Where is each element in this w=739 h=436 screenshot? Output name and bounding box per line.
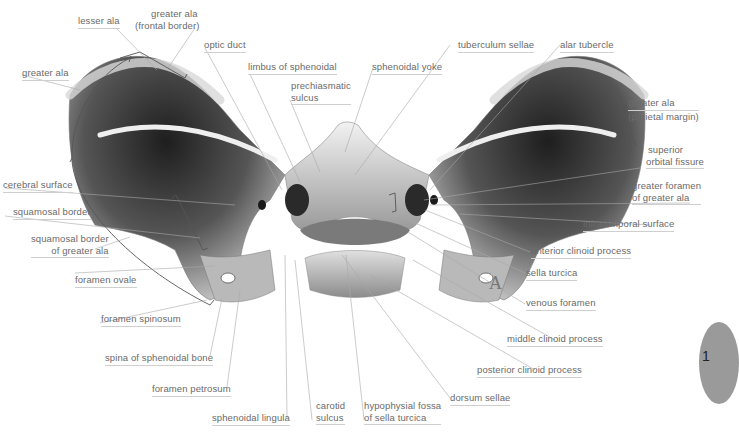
label-venous-foramen: venous foramen — [526, 297, 596, 311]
page-tab-number: 1 — [702, 348, 710, 364]
label-infratemporal-surface: infratemporal surface — [583, 218, 674, 232]
label-spina-sphenoidal-bone: spina of sphenoidal bone — [105, 352, 213, 366]
label-dorsum-sellae: dorsum sellae — [450, 392, 510, 406]
label-squamosal-border-greater-ala: squamosal border of greater ala — [31, 233, 109, 258]
label-middle-clinoid-process: middle clinoid process — [507, 333, 603, 347]
label-limbus-sphenoidal: limbus of sphenoidal — [248, 61, 337, 75]
label-cerebral-surface: cerebral surface — [3, 179, 73, 193]
view-letter: A — [489, 273, 502, 294]
label-tuberculum-sellae: tuberculum sellae — [458, 39, 534, 53]
label-superior-orbital-fissure: superior orbital fissure — [646, 144, 704, 169]
label-greater-ala: greater ala — [22, 67, 69, 81]
label-anterior-clinoid-process: anterior clinoid process — [531, 245, 631, 259]
label-lesser-ala: lesser ala — [78, 15, 120, 29]
label-posterior-clinoid-process: posterior clinoid process — [477, 364, 582, 378]
label-greater-ala-frontal: greater ala (frontal border) — [135, 8, 199, 31]
label-alar-tubercle: alar tubercle — [560, 39, 614, 53]
label-foramen-petrosum: foramen petrosum — [152, 383, 231, 397]
label-prechiasmatic-sulcus: prechiasmatic sulcus — [291, 80, 351, 105]
label-foramen-spinosum: foramen spinosum — [101, 313, 181, 327]
label-hypophysial-fossa: hypophysial fossa of sella turcica — [364, 400, 441, 425]
label-optic-duct: optic duct — [204, 39, 246, 53]
label-carotid-sulcus: carotid sulcus — [316, 400, 345, 425]
label-sphenoidal-yoke: sphenoidal yoke — [372, 61, 442, 75]
label-sella-turcica: sella turcica — [526, 267, 577, 281]
label-squamosal-border: squamosal border — [13, 206, 91, 220]
label-greater-ala-parietal: greater ala (parietal margin) — [628, 97, 699, 122]
label-greater-foramen: greater foramen of greater ala — [632, 180, 701, 205]
label-foramen-ovale: foramen ovale — [75, 274, 137, 288]
label-sphenoidal-lingula: sphenoidal lingula — [212, 412, 290, 426]
